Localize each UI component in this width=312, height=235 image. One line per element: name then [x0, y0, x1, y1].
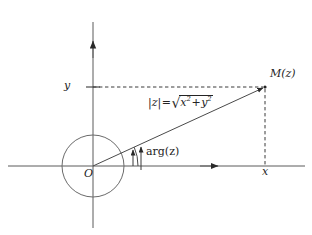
radicand: x2+y2 — [179, 95, 212, 108]
radicand-plus-sign: + — [191, 96, 201, 109]
point-label-m: M(z) — [270, 68, 296, 79]
origin-label: O — [84, 168, 93, 179]
x-axis-value-label: x — [262, 166, 268, 177]
complex-plane-figure: y x O M(z) arg(z) |z|=√x2+y2 — [0, 0, 312, 235]
argument-arc — [134, 147, 138, 166]
point-marker-m — [263, 85, 266, 88]
square-root-group: √x2+y2 — [171, 95, 212, 110]
argument-label: arg(z) — [146, 146, 179, 157]
y-axis-value-label: y — [64, 80, 70, 91]
modulus-equals-sign: = — [161, 96, 171, 109]
figure-canvas — [0, 0, 312, 235]
radicand-y-exponent: 2 — [207, 95, 211, 103]
modulus-formula-label: |z|=√x2+y2 — [148, 95, 213, 110]
modulus-lhs: |z| — [148, 96, 161, 109]
